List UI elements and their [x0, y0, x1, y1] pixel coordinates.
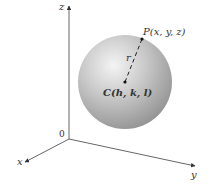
point-p: [140, 37, 143, 40]
y-axis-label: y: [190, 169, 197, 180]
sphere-diagram: z x y 0 P(x, y, z) C(h, k, l) r: [0, 0, 215, 186]
x-axis-label: x: [17, 156, 23, 167]
z-axis-label: z: [58, 1, 65, 12]
point-c-label: C(h, k, l): [103, 87, 153, 99]
point-c: [123, 80, 126, 83]
origin-label: 0: [59, 129, 65, 139]
y-axis: [69, 139, 195, 166]
x-axis: [25, 139, 69, 162]
point-p-label: P(x, y, z): [142, 26, 186, 37]
